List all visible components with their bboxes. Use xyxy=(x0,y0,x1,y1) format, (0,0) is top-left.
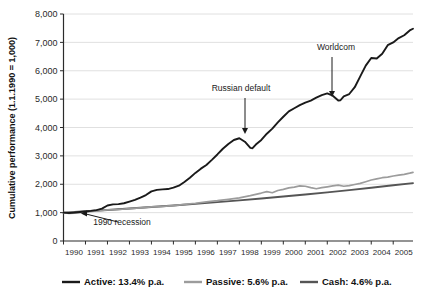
x-tick-label: 1990 xyxy=(65,248,83,257)
y-tick-label: 3,000 xyxy=(35,151,58,161)
annotation-label-recession-1990: 1990 recession xyxy=(93,217,151,227)
x-tick-label: 1993 xyxy=(131,248,149,257)
x-tick-label: 1995 xyxy=(175,248,193,257)
y-tick-label: 2,000 xyxy=(35,179,58,189)
y-tick-label: 5,000 xyxy=(35,94,58,104)
legend-label-passive: Passive: 5.6% p.a. xyxy=(206,276,288,287)
y-tick-label: 1,000 xyxy=(35,208,58,218)
x-tick-label: 2002 xyxy=(329,248,347,257)
annotation-label-worldcom: Worldcom xyxy=(317,42,355,52)
x-tick-label: 1996 xyxy=(197,248,215,257)
chart-container: Cumulative performance (1.1.1990 = 1,000… xyxy=(0,0,424,296)
annotation-label-russian-default: Russian default xyxy=(212,83,271,93)
y-tick-label: 4,000 xyxy=(35,123,58,133)
x-tick-label: 1997 xyxy=(219,248,237,257)
legend-label-cash: Cash: 4.6% p.a. xyxy=(322,276,392,287)
legend-label-active: Active: 13.4% p.a. xyxy=(84,276,164,287)
x-tick-label: 2003 xyxy=(351,248,369,257)
y-tick-label: 7,000 xyxy=(35,38,58,48)
x-tick-label: 1998 xyxy=(241,248,259,257)
chart-legend: Active: 13.4% p.a.Passive: 5.6% p.a.Cash… xyxy=(62,276,392,287)
x-tick-label: 1999 xyxy=(263,248,281,257)
cumulative-performance-line-chart: Cumulative performance (1.1.1990 = 1,000… xyxy=(0,0,424,296)
x-tick-label: 1994 xyxy=(153,248,171,257)
x-tick-label: 1991 xyxy=(87,248,105,257)
x-tick-label: 1992 xyxy=(109,248,127,257)
x-tick-label: 2001 xyxy=(307,248,325,257)
x-tick-label: 2005 xyxy=(395,248,413,257)
x-tick-label: 2004 xyxy=(373,248,391,257)
y-tick-label: 6,000 xyxy=(35,66,58,76)
y-tick-label: 8,000 xyxy=(35,9,58,19)
y-axis-title: Cumulative performance (1.1.1990 = 1,000… xyxy=(7,37,17,219)
y-tick-label: 0 xyxy=(52,236,57,246)
x-tick-label: 2000 xyxy=(285,248,303,257)
